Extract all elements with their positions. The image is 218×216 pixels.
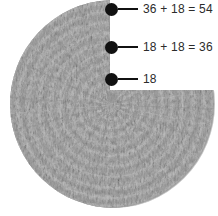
round-1-marker-dot[interactable] (105, 73, 118, 86)
round-1-label: 18 (143, 71, 157, 87)
round-1-leader-line (118, 78, 138, 80)
callout-layer: 36 + 18 = 54 18 + 18 = 36 18 (0, 0, 218, 216)
callout-round-3[interactable]: 36 + 18 = 54 (105, 1, 213, 17)
round-3-leader-line (118, 8, 138, 10)
callout-round-2[interactable]: 18 + 18 = 36 (105, 39, 213, 55)
round-2-label: 18 + 18 = 36 (143, 39, 213, 55)
round-2-marker-dot[interactable] (105, 41, 118, 54)
round-3-marker-dot[interactable] (105, 3, 118, 16)
callout-round-1[interactable]: 18 (105, 71, 157, 87)
crochet-diagram: 36 + 18 = 54 18 + 18 = 36 18 (0, 0, 218, 216)
round-3-label: 36 + 18 = 54 (143, 1, 213, 17)
round-2-leader-line (118, 46, 138, 48)
